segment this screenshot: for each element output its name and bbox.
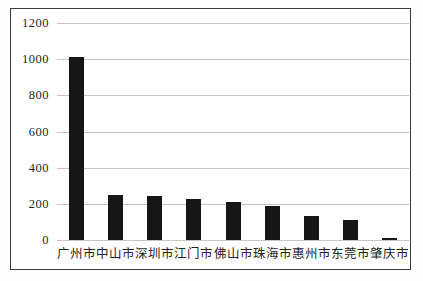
bar-珠海市 [265,206,280,240]
y-tick-label-200: 200 [11,197,49,211]
y-tick-label-800: 800 [11,88,49,102]
y-tick-label-600: 600 [11,125,49,139]
y-tick-label-1200: 1200 [11,16,49,30]
bar-广州市 [69,57,84,240]
y-tick-label-400: 400 [11,161,49,175]
plot-area [57,23,409,240]
y-tick-label-0: 0 [11,233,49,247]
gridline-y-400 [57,168,409,169]
y-tick-label-1000: 1000 [11,52,49,66]
gridline-y-1200 [57,23,409,24]
bar-肇庆市 [382,238,397,240]
bar-佛山市 [226,202,241,240]
x-tick-label-肇庆市: 肇庆市 [365,247,413,262]
gridline-y-800 [57,95,409,96]
bar-江门市 [186,199,201,240]
bar-惠州市 [304,216,319,240]
bar-东莞市 [343,220,358,240]
gridline-y-1000 [57,59,409,60]
chart-frame: 020040060080010001200 广州市中山市深圳市江门市佛山市珠海市… [10,8,411,270]
gridline-y-600 [57,132,409,133]
bar-深圳市 [147,196,162,240]
gridline-y-0 [57,240,409,241]
chart-image: 020040060080010001200 广州市中山市深圳市江门市佛山市珠海市… [0,0,423,281]
bar-中山市 [108,195,123,240]
